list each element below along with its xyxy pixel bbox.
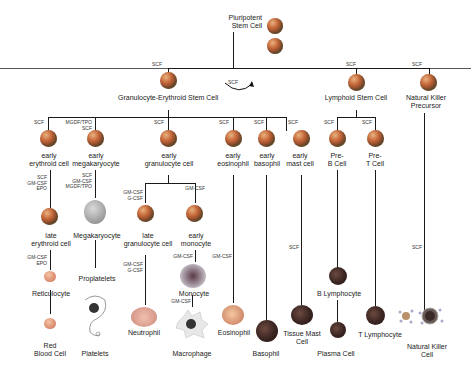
connector — [375, 117, 376, 131]
factor-eosinophil: GM-CSF — [207, 254, 232, 260]
label-late-granulocyte: late granulocyte cell — [120, 232, 176, 248]
t-lymphocyte-icon — [366, 306, 385, 325]
factor-late-gran: GM-CSF G-CSF — [118, 190, 143, 201]
megakaryocyte-icon — [84, 200, 106, 224]
factor-macrophage: GM-CSF — [166, 299, 191, 305]
connector — [168, 175, 169, 183]
connector — [266, 175, 267, 320]
connector — [168, 110, 169, 117]
factor-self-renew: SCF — [226, 80, 240, 86]
factor-lymphoid: SCF — [342, 62, 356, 68]
connector — [233, 117, 234, 131]
factor-early-mast: SCF — [284, 120, 298, 126]
connector — [195, 250, 196, 262]
label-eosinophil: Eosinophil — [216, 329, 252, 337]
factor-tissue-mast: SCF — [285, 245, 299, 251]
reticulocyte-icon — [44, 271, 56, 282]
factor-nk-cell: SCF — [408, 245, 422, 251]
label-red-blood-cell: Red Blood Cell — [28, 342, 72, 358]
early-granulocyte-icon — [160, 130, 177, 147]
early-erythroid-icon — [40, 130, 57, 147]
plasma-cell-icon — [330, 322, 346, 338]
label-natural-killer: Natural Killer Cell — [400, 343, 454, 359]
label-neutrophil: Neutrophil — [124, 329, 164, 337]
factor-reticulocyte: GM-CSF EPO — [22, 255, 47, 266]
eosinophil-icon — [222, 305, 244, 325]
connector — [48, 117, 286, 118]
label-late-erythroid: late erythroid cell — [24, 232, 78, 248]
connector — [233, 175, 234, 303]
label-t-lymphocyte: T Lymphocyte — [356, 331, 404, 339]
natural-killer-cell-icon — [398, 303, 446, 331]
nk-precursor-icon — [420, 74, 437, 91]
label-ge-stem: Granulocyte-Erythroid Stem Cell — [118, 94, 218, 102]
pre-t-icon — [367, 130, 384, 147]
connector — [337, 300, 338, 322]
monocyte-icon — [180, 264, 206, 288]
factor-megakaryocyte: SCF GM-CSF MGDF/TPO — [60, 173, 92, 190]
factor-nk-prec: SCF — [408, 62, 422, 68]
connector — [266, 117, 267, 131]
label-early-eosinophil: early eosinophil — [213, 152, 253, 168]
connector — [95, 240, 96, 268]
red-blood-cell-icon — [44, 318, 56, 329]
early-megakaryocyte-icon — [87, 130, 104, 147]
early-mast-icon — [293, 130, 310, 147]
connector — [337, 170, 338, 268]
connector — [375, 170, 376, 315]
label-pluripotent: Pluripotent Stem Cell — [226, 14, 262, 30]
factor-early-baso: SCF — [250, 120, 264, 126]
factor-early-gran: SCF — [150, 120, 164, 126]
label-platelets: Platelets — [78, 350, 112, 358]
factor-pre-b: SCF — [320, 120, 334, 126]
tissue-mast-icon — [291, 305, 313, 325]
early-basophil-icon — [258, 130, 275, 147]
factor-early-mono: GM-CSF — [180, 186, 205, 192]
connector — [50, 170, 51, 208]
lymphoid-stem-cell-icon — [348, 74, 365, 91]
label-nk-precursor: Natural Killer Precursor — [400, 94, 452, 110]
early-eosinophil-icon — [225, 130, 242, 147]
late-granulocyte-icon — [137, 205, 154, 222]
label-early-mast: early mast cell — [282, 152, 318, 168]
b-lymphocyte-icon — [329, 267, 347, 285]
label-monocyte: Monocyte — [176, 290, 212, 298]
connector — [95, 170, 96, 198]
connector — [168, 68, 430, 69]
label-proplatelets: Proplatelets — [76, 275, 118, 283]
macrophage-icon — [174, 308, 210, 340]
connector — [145, 183, 146, 203]
connector — [95, 117, 96, 131]
label-pre-t: Pre- T Cell — [360, 152, 390, 168]
pluripotent-stem-cell-icon — [267, 18, 283, 34]
early-monocyte-icon — [186, 205, 203, 222]
connector — [233, 32, 234, 68]
label-early-megakaryocyte: early megakaryocyte — [70, 152, 122, 168]
factor-neutrophil: GM-CSF G-CSF — [118, 262, 143, 273]
factor-pre-t: SCF — [358, 120, 372, 126]
connector — [337, 117, 375, 118]
connector — [48, 117, 49, 131]
late-erythroid-icon — [41, 208, 58, 225]
connector — [301, 175, 302, 305]
label-plasma-cell: Plasma Cell — [314, 350, 358, 358]
neutrophil-icon — [131, 307, 157, 327]
label-pre-b: Pre- B Cell — [322, 152, 352, 168]
label-early-basophil: early basophil — [250, 152, 284, 168]
factor-ge-stem: SCF — [148, 62, 162, 68]
label-early-monocyte: early monocyte — [176, 232, 216, 248]
basophil-icon — [256, 320, 278, 342]
connector — [424, 113, 425, 313]
label-tissue-mast: Tissue Mast Cell — [280, 330, 324, 346]
connector — [50, 250, 51, 270]
label-early-erythroid: early erythroid cell — [22, 152, 76, 168]
factor-monocyte: GM-CSF — [168, 254, 193, 260]
label-reticulocyte: Reticulocyte — [26, 290, 76, 298]
connector — [145, 255, 146, 305]
hematopoiesis-diagram: Pluripotent Stem Cell Granulocyte-Erythr… — [0, 0, 471, 377]
pluripotent-stem-cell-icon — [267, 38, 283, 54]
label-early-granulocyte: early granulocyte cell — [140, 152, 198, 168]
connector — [337, 117, 338, 131]
pre-b-icon — [329, 130, 346, 147]
connector — [168, 117, 169, 131]
